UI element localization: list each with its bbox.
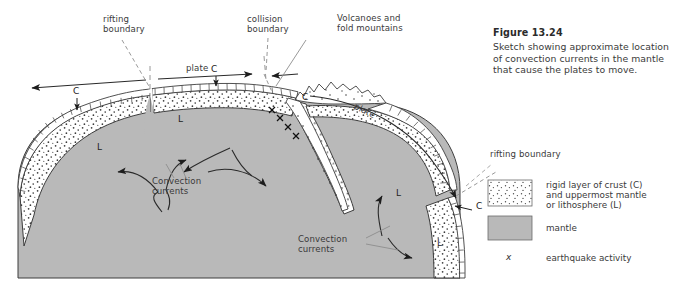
label-convection-currents-right: Convection currents [298, 234, 347, 255]
legend-item-earthquake-text: earthquake activity [546, 253, 631, 263]
label-plate-left: plate [186, 63, 208, 73]
label-lithosphere-mid: L [178, 114, 183, 124]
label-convection-currents-left: Convection currents [152, 176, 201, 197]
legend-item-mantle-text: mantle [546, 223, 577, 233]
label-crust-right: C [476, 201, 482, 211]
label-crust-arc: C [302, 92, 308, 102]
figure-number: Figure 13.24 [493, 27, 563, 38]
legend-earthquake-symbol: x [506, 252, 511, 262]
volcanic-arc [296, 82, 386, 104]
legend-swatches [488, 180, 532, 240]
label-lithosphere-far-right: L [437, 238, 442, 248]
label-lithosphere-left: L [97, 142, 102, 152]
label-crust-left: C [73, 86, 79, 96]
label-collision-boundary: collision boundary [247, 14, 289, 35]
label-rifting-boundary-top: rifting boundary [103, 14, 145, 35]
figure-container: rifting boundary collision boundary Volc… [0, 0, 679, 284]
legend-item-lithosphere-text: rigid layer of crust (C) and uppermost m… [546, 180, 676, 211]
label-crust-mid: C [211, 64, 217, 74]
label-lithosphere-right: L [396, 188, 401, 198]
figure-caption: Sketch showing approximate location of c… [493, 41, 673, 76]
legend-rifting-boundary-label: rifting boundary [490, 149, 561, 159]
label-volcanoes-fold-mountains: Volcanoes and fold mountains [337, 13, 403, 34]
